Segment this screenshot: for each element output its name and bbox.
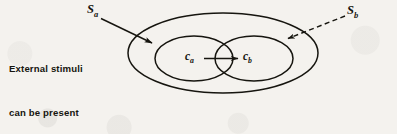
- figure-caption-line-1: Sb and cb are greater than: [251, 132, 367, 134]
- figure-canvas: Sa Sb ca cb External stimuli can be pres…: [0, 0, 397, 134]
- label-sa: Sa: [87, 2, 98, 19]
- caption-sb: Sb: [251, 133, 260, 134]
- caption-predicate: are greater than: [290, 133, 367, 134]
- left-annotation: External stimuli can be present or absen…: [9, 33, 83, 134]
- left-annotation-line-2: can be present: [9, 106, 83, 121]
- figure-caption: Sb and cb are greater than Sa or ca: [251, 103, 367, 134]
- label-ca: ca: [185, 50, 194, 65]
- caption-conjunction: and: [260, 133, 283, 134]
- left-annotation-line-1: External stimuli: [9, 62, 83, 77]
- label-cb: cb: [243, 50, 252, 65]
- label-sb: Sb: [347, 3, 358, 20]
